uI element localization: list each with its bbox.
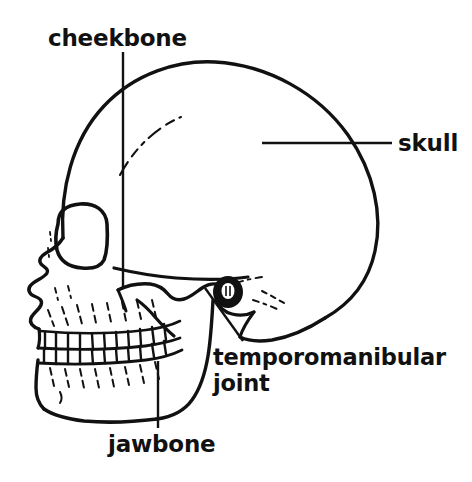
label-tmj-line2: joint	[213, 370, 270, 396]
label-tmj-line1: temporomanibular	[213, 344, 446, 370]
label-cheekbone: cheekbone	[48, 25, 187, 51]
coronal-suture	[120, 117, 181, 175]
label-temporomandibular-joint: temporomanibularjoint	[213, 344, 463, 396]
label-jawbone: jawbone	[108, 431, 216, 457]
occipital-curve	[240, 318, 325, 341]
upper-teeth	[38, 321, 180, 350]
skull-diagram-page: cheekbone skull temporomanibularjoint ja…	[0, 0, 472, 482]
label-skull: skull	[398, 130, 458, 156]
mandible-hatching	[50, 362, 159, 403]
posterior-hatching	[253, 291, 284, 310]
maxilla-hatching	[48, 286, 156, 326]
skull-illustration	[0, 0, 472, 482]
